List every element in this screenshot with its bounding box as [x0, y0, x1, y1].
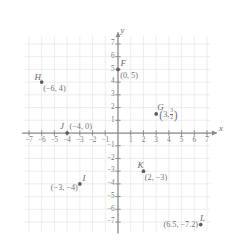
point-label-k: K [137, 161, 143, 170]
point-marker-l [199, 223, 203, 227]
x-tick-label--7: −7 [25, 137, 33, 144]
y-tick-label-6: 6 [111, 53, 115, 60]
point-marker-g [154, 112, 158, 116]
x-tick-label-7: 7 [205, 137, 209, 144]
x-tick-label--3: −3 [76, 137, 84, 144]
plot-canvas [0, 0, 241, 241]
x-tick-label-6: 6 [193, 137, 197, 144]
point-coords-i: (−3, −4) [51, 184, 78, 192]
x-tick-label--6: −6 [38, 137, 46, 144]
grid-lines [25, 36, 211, 231]
y-tick-label-4: 4 [111, 78, 115, 85]
point-label-h: H [34, 73, 41, 82]
y-tick-label-5: 5 [111, 66, 115, 73]
y-tick-label-7: 7 [111, 40, 115, 47]
y-tick-label--2: −2 [107, 155, 115, 162]
point-coords-k: (2, −3) [145, 174, 167, 182]
y-tick-label-1: 1 [111, 117, 115, 124]
x-tick-label-2: 2 [142, 137, 146, 144]
point-label-l: L [200, 214, 205, 223]
point-coords-g: (3,32) [159, 109, 177, 122]
x-tick-label-5: 5 [180, 137, 184, 144]
point-coords-f: (0, 5) [120, 72, 138, 80]
point-label-f: F [120, 59, 126, 68]
coordinate-plane: xy−7−6−5−4−3−2−112345677654321−1−2−3−4−5… [0, 0, 241, 241]
x-tick-label--4: −4 [63, 137, 71, 144]
point-label-i: I [82, 174, 85, 183]
point-coords-l: (6.5, −7.2) [163, 221, 198, 229]
point-coords-j: (−4, 0) [70, 123, 92, 131]
point-coords-h: (−6, 4) [43, 85, 65, 93]
y-tick-label--5: −5 [107, 193, 115, 200]
y-tick-label--4: −4 [107, 180, 115, 187]
y-axis-label: y [121, 26, 125, 35]
x-axis-label: x [219, 124, 223, 133]
x-tick-label--2: −2 [89, 137, 97, 144]
y-tick-label-2: 2 [111, 104, 115, 111]
point-label-j: J [60, 122, 64, 131]
y-tick-label--6: −6 [107, 206, 115, 213]
x-tick-label--5: −5 [51, 137, 59, 144]
y-tick-label--3: −3 [107, 167, 115, 174]
y-tick-label-3: 3 [111, 91, 115, 98]
y-tick-label--1: −1 [107, 142, 115, 149]
y-tick-label--7: −7 [107, 218, 115, 225]
x-tick-label-3: 3 [154, 137, 158, 144]
x-tick-label-1: 1 [129, 137, 133, 144]
x-tick-label-4: 4 [167, 137, 171, 144]
point-marker-j [65, 131, 69, 135]
